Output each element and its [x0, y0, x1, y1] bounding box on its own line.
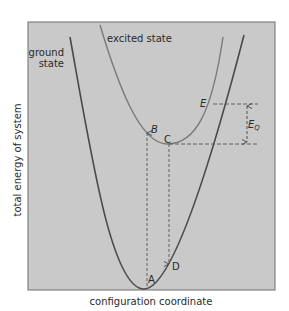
- excited-state-label: excited state: [107, 33, 172, 44]
- point-label-D: D: [172, 261, 180, 272]
- plot-panel: [28, 22, 275, 290]
- ground-state-label: ground: [29, 47, 64, 58]
- point-label-E: E: [200, 98, 207, 109]
- point-label-C: C: [164, 134, 171, 145]
- point-label-B: B: [151, 124, 158, 135]
- ground-state-label-2: state: [39, 58, 64, 69]
- configuration-coordinate-diagram: ground state excited state B C E A D EQ …: [0, 0, 289, 311]
- y-axis-label: total energy of system: [12, 103, 23, 216]
- x-axis-label: configuration coordinate: [90, 296, 213, 307]
- point-label-A: A: [148, 274, 155, 285]
